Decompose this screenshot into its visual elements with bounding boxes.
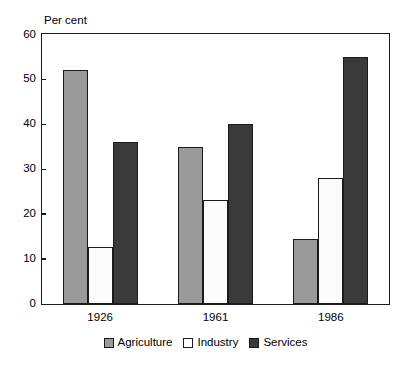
legend-swatch-icon xyxy=(183,338,193,348)
legend-swatch-icon xyxy=(249,338,259,348)
bar-agriculture-1926[interactable] xyxy=(63,70,88,303)
x-axis-tick-label: 1961 xyxy=(178,311,253,324)
bar-group xyxy=(178,35,253,304)
bar-industry-1961[interactable] xyxy=(203,200,228,303)
y-axis-tick-label: 50 xyxy=(23,72,36,85)
legend-item-agriculture[interactable]: Agriculture xyxy=(104,336,173,349)
legend-label: Industry xyxy=(197,336,238,349)
bar-chart: Per cent 0102030405060 192619611986 Agri… xyxy=(0,0,411,370)
y-axis-tick-label: 60 xyxy=(23,28,36,41)
bar-services-1926[interactable] xyxy=(113,142,138,303)
plot-area xyxy=(43,35,389,304)
legend-item-services[interactable]: Services xyxy=(249,336,307,349)
x-axis-tick-label: 1926 xyxy=(63,311,138,324)
bar-group xyxy=(293,35,368,304)
bar-services-1961[interactable] xyxy=(228,124,253,303)
y-axis-tick-label: 40 xyxy=(23,117,36,130)
y-axis-tick-label: 10 xyxy=(23,252,36,265)
legend-label: Agriculture xyxy=(118,336,173,349)
bar-agriculture-1986[interactable] xyxy=(293,239,318,304)
y-axis-tick-label: 20 xyxy=(23,207,36,220)
bar-group xyxy=(63,35,138,304)
y-axis-unit-label: Per cent xyxy=(44,14,87,27)
y-axis-tick-label: 0 xyxy=(30,297,36,310)
bar-agriculture-1961[interactable] xyxy=(178,147,203,304)
bar-services-1986[interactable] xyxy=(343,57,368,304)
y-axis-tick-label: 30 xyxy=(23,162,36,175)
legend-label: Services xyxy=(263,336,307,349)
bar-industry-1926[interactable] xyxy=(88,247,113,303)
bar-industry-1986[interactable] xyxy=(318,178,343,304)
legend-swatch-icon xyxy=(104,338,114,348)
chart-legend: AgricultureIndustryServices xyxy=(0,336,411,349)
legend-item-industry[interactable]: Industry xyxy=(183,336,238,349)
x-axis-tick-label: 1986 xyxy=(293,311,368,324)
bars-layer xyxy=(43,35,389,304)
